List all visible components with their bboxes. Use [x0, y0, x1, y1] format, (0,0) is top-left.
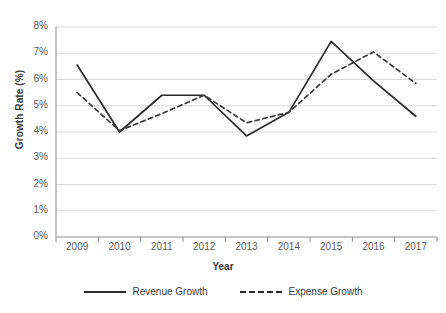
chart-legend: Revenue Growth Expense Growth [0, 286, 446, 297]
legend-label: Revenue Growth [133, 286, 208, 297]
legend-item-revenue-growth[interactable]: Revenue Growth [84, 286, 208, 297]
legend-item-expense-growth[interactable]: Expense Growth [240, 286, 363, 297]
line-chart: Growth Rate (%) 0%1%2%3%4%5%6%7%8% 20092… [0, 0, 446, 313]
x-axis-title: Year [0, 261, 446, 272]
x-axis-tick-label: 2017 [386, 241, 446, 252]
series-line-expense-growth [77, 52, 416, 131]
legend-swatch-dashed-line-icon [240, 291, 282, 293]
legend-label: Expense Growth [289, 286, 363, 297]
legend-swatch-solid-line-icon [84, 291, 126, 293]
